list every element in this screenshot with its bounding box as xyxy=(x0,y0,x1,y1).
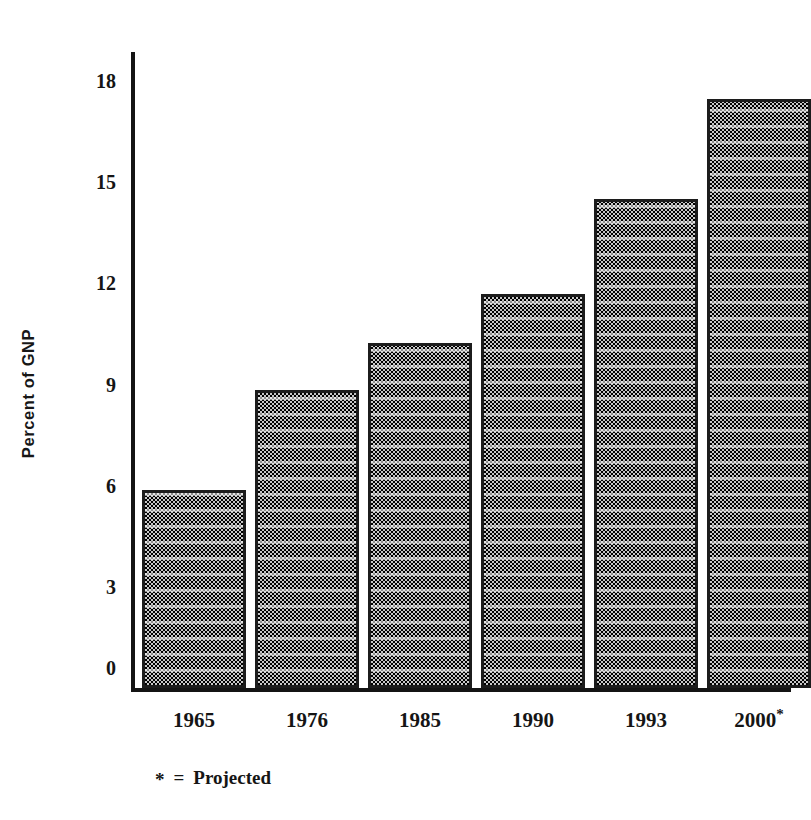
footnote-equals: = xyxy=(174,767,185,788)
x-axis-line xyxy=(131,688,791,692)
y-tick-label-0: 0 xyxy=(76,658,116,678)
y-tick-label-15: 15 xyxy=(76,172,116,192)
bar-1965[interactable] xyxy=(142,490,246,688)
x-tick-text: 1990 xyxy=(512,708,554,732)
y-tick-label-6: 6 xyxy=(76,476,116,496)
y-tick-label-12: 12 xyxy=(76,273,116,293)
bars-layer xyxy=(142,52,791,688)
y-tick-label-18: 18 xyxy=(76,71,116,91)
footnote-asterisk-icon: * xyxy=(155,769,165,790)
projected-asterisk-icon: * xyxy=(776,706,784,722)
bar-chart: Percent of GNP 18 15 12 9 6 3 0 1965 197… xyxy=(0,0,811,820)
x-tick-label-1976: 1976 xyxy=(255,708,359,733)
y-axis-line xyxy=(131,52,135,692)
x-tick-label-1985: 1985 xyxy=(368,708,472,733)
y-tick-label-3: 3 xyxy=(76,577,116,597)
bar-1990[interactable] xyxy=(481,294,585,688)
x-tick-text: 1985 xyxy=(399,708,441,732)
bar-1976[interactable] xyxy=(255,390,359,688)
x-tick-label-1993: 1993 xyxy=(594,708,698,733)
x-tick-label-1990: 1990 xyxy=(481,708,585,733)
y-tick-label-9: 9 xyxy=(76,375,116,395)
bar-1985[interactable] xyxy=(368,343,472,688)
x-tick-text: 1965 xyxy=(173,708,215,732)
plot-area xyxy=(131,52,791,692)
footnote: *=Projected xyxy=(155,767,271,791)
x-tick-text: 1976 xyxy=(286,708,328,732)
bar-1993[interactable] xyxy=(594,199,698,688)
footnote-text: Projected xyxy=(193,767,271,788)
y-axis-title: Percent of GNP xyxy=(19,304,38,484)
bar-2000[interactable] xyxy=(707,99,811,688)
x-tick-text: 2000 xyxy=(734,708,776,732)
x-tick-label-1965: 1965 xyxy=(142,708,246,733)
x-tick-text: 1993 xyxy=(625,708,667,732)
x-tick-label-2000: 2000* xyxy=(707,708,811,733)
